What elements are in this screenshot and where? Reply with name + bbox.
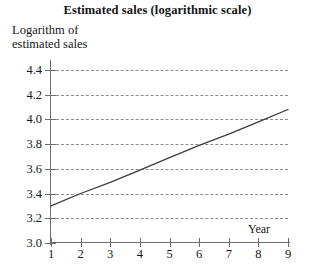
x-tick-mark-4 [140,238,141,247]
x-tick-mark-6 [199,238,200,247]
gridline-4.0 [51,119,288,120]
y-tick-label-4.2: 4.2 [2,88,42,103]
y-tick-mark-3.2 [45,218,56,219]
x-tick-label-8: 8 [248,247,268,262]
x-tick-mark-3 [110,238,111,247]
x-tick-label-6: 6 [189,247,209,262]
gridline-3.8 [51,144,288,145]
gridline-4.4 [51,70,288,71]
y-tick-label-3.2: 3.2 [2,211,42,226]
x-tick-label-3: 3 [100,247,120,262]
x-tick-label-9: 9 [278,247,298,262]
chart-title: Estimated sales (logarithmic scale) [0,3,315,18]
y-tick-label-4.4: 4.4 [2,63,42,78]
y-tick-mark-3.4 [45,194,56,195]
y-axis-title: Logarithm of estimated sales [12,24,87,51]
gridline-3.4 [51,194,288,195]
y-tick-label-4.0: 4.0 [2,112,42,127]
plot-area [51,70,288,243]
x-tick-mark-2 [81,238,82,247]
x-tick-mark-1 [51,238,52,247]
y-tick-mark-3.6 [45,169,56,170]
gridline-3.2 [51,218,288,219]
y-tick-mark-4.2 [45,95,56,96]
y-tick-label-3.0: 3.0 [2,236,42,251]
x-tick-mark-9 [288,238,289,247]
y-tick-mark-4.4 [45,70,56,71]
x-tick-label-2: 2 [71,247,91,262]
y-tick-label-3.8: 3.8 [2,137,42,152]
x-tick-label-7: 7 [219,247,239,262]
x-tick-mark-5 [170,238,171,247]
gridline-4.2 [51,95,288,96]
x-tick-mark-7 [229,238,230,247]
x-tick-label-5: 5 [160,247,180,262]
gridline-3.6 [51,169,288,170]
y-tick-label-3.6: 3.6 [2,162,42,177]
y-tick-mark-3.8 [45,144,56,145]
chart-figure: Estimated sales (logarithmic scale) Loga… [0,0,315,277]
x-tick-label-1: 1 [41,247,61,262]
x-tick-mark-8 [258,238,259,247]
x-tick-label-4: 4 [130,247,150,262]
y-tick-label-3.4: 3.4 [2,187,42,202]
y-tick-mark-4.0 [45,119,56,120]
